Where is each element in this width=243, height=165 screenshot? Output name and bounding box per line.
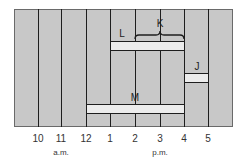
- label-J: J: [195, 62, 200, 72]
- label-M: M: [131, 93, 139, 103]
- am-label: a.m.: [53, 149, 69, 157]
- tick-label: 1: [107, 134, 113, 144]
- tick-label: 12: [80, 134, 91, 144]
- label-K: K: [157, 19, 164, 29]
- tick-label: 3: [157, 134, 163, 144]
- pm-label: p.m.: [152, 149, 168, 157]
- tick-label: 2: [132, 134, 138, 144]
- tick-label: 11: [56, 134, 66, 144]
- tick-label: 4: [181, 134, 187, 144]
- tick-label: 5: [205, 134, 211, 144]
- tick-label: 10: [32, 134, 43, 144]
- label-L: L: [119, 29, 125, 39]
